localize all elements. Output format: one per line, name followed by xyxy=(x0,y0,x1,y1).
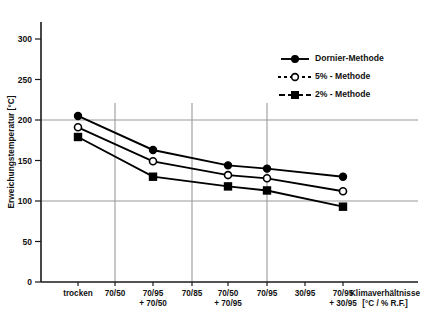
data-point-marker-filled-square xyxy=(339,203,346,210)
x-tick-label-1-line1: 70/50 xyxy=(105,289,126,298)
y-axis-title: Erweichungstemperatur [°C] xyxy=(6,95,16,208)
legend-item-5-percent: 5% - Methode xyxy=(278,71,371,81)
x-tick-label-7-line2: + 30/95 xyxy=(329,299,357,308)
legend-label-2-percent: 2% - Methode xyxy=(315,89,371,99)
filled-circle-icon xyxy=(292,56,299,63)
x-tick-label-4-line1: 70/50 xyxy=(218,289,239,298)
legend-label-5-percent: 5% - Methode xyxy=(315,71,371,81)
x-axis-title: Klimaverhältnisse [°C / % R.F.] xyxy=(350,289,421,308)
data-point-marker-open-circle xyxy=(340,188,347,195)
data-point-marker-open-circle xyxy=(150,158,157,165)
y-axis-ticks xyxy=(35,39,41,282)
data-point-marker-filled-square xyxy=(149,173,156,180)
x-tick-label-5-line1: 70/95 xyxy=(257,289,278,298)
softening-temperature-line-chart: 0 50 100 150 200 250 300 Erweichungstemp… xyxy=(0,0,448,316)
legend: Dornier-Methode 5% - Methode 2% - Method… xyxy=(278,53,384,99)
filled-square-icon xyxy=(292,92,299,99)
open-circle-icon xyxy=(292,74,299,81)
x-tick-label-2-line2: + 70/50 xyxy=(139,299,167,308)
legend-item-dornier: Dornier-Methode xyxy=(281,53,384,63)
vertical-gridlines xyxy=(115,103,267,282)
data-point-marker-open-circle xyxy=(264,175,271,182)
y-tick-label-250: 250 xyxy=(18,75,32,85)
data-point-marker-filled-circle xyxy=(149,146,156,153)
data-point-marker-filled-square xyxy=(74,133,81,140)
data-point-marker-filled-circle xyxy=(339,173,346,180)
data-point-marker-open-circle xyxy=(75,124,82,131)
y-tick-label-200: 200 xyxy=(18,115,32,125)
y-axis-tick-labels: 0 50 100 150 200 250 300 xyxy=(18,34,32,287)
y-tick-label-150: 150 xyxy=(18,156,32,166)
data-point-marker-filled-circle xyxy=(74,112,81,119)
y-tick-label-300: 300 xyxy=(18,34,32,44)
x-tick-label-0-line1: trocken xyxy=(63,289,93,298)
x-axis-tick-labels: trocken 70/50 70/95 + 70/50 70/85 70/50 … xyxy=(63,289,357,308)
x-axis-title-line1: Klimaverhältnisse xyxy=(350,289,421,298)
data-point-marker-filled-square xyxy=(224,183,231,190)
series-line-2 xyxy=(78,127,343,191)
data-point-marker-filled-circle xyxy=(224,162,231,169)
x-tick-label-4-line2: + 70/95 xyxy=(214,299,242,308)
y-tick-label-100: 100 xyxy=(18,196,32,206)
y-tick-label-50: 50 xyxy=(23,237,33,247)
x-tick-label-6-line1: 30/95 xyxy=(295,289,316,298)
legend-item-2-percent: 2% - Methode xyxy=(279,89,371,99)
y-tick-label-0: 0 xyxy=(27,277,32,287)
data-point-marker-filled-square xyxy=(263,187,270,194)
x-axis-title-line2: [°C / % R.F.] xyxy=(362,299,408,308)
chart-container: 0 50 100 150 200 250 300 Erweichungstemp… xyxy=(0,0,448,316)
data-point-marker-open-circle xyxy=(225,172,232,179)
x-tick-label-2-line1: 70/95 xyxy=(143,289,164,298)
data-point-marker-filled-circle xyxy=(263,165,270,172)
legend-label-dornier: Dornier-Methode xyxy=(315,53,384,63)
x-tick-label-3-line1: 70/85 xyxy=(182,289,203,298)
